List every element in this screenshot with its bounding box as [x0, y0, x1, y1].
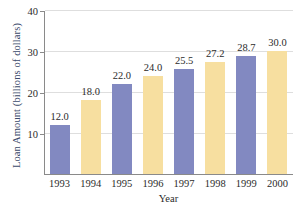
- bar-chart-figure: Loan Amount (billions of dollars) 102030…: [0, 0, 299, 210]
- gridline: [45, 51, 293, 52]
- bar: 27.21998: [205, 62, 225, 174]
- y-axis-tick-label: 10: [28, 129, 39, 140]
- y-axis-line: [44, 11, 45, 175]
- bar-value-label: 12.0: [50, 111, 68, 122]
- tick-mark: [40, 134, 44, 135]
- x-axis-title: Year: [44, 193, 293, 204]
- tick-mark: [40, 11, 44, 12]
- bar: 24.01996: [143, 76, 163, 174]
- bar-rect: [81, 100, 101, 174]
- bar-value-label: 24.0: [144, 62, 162, 73]
- x-axis-tick-label: 1996: [142, 178, 163, 189]
- tick-mark: [40, 52, 44, 53]
- bar-value-label: 25.5: [175, 55, 193, 66]
- bar-value-label: 28.7: [237, 42, 255, 53]
- x-axis-tick-label: 2000: [267, 178, 288, 189]
- x-axis-tick-label: 1998: [205, 178, 226, 189]
- bar-rect: [112, 84, 132, 174]
- x-axis-tick-label: 1995: [111, 178, 132, 189]
- bar-value-label: 22.0: [113, 70, 131, 81]
- bar: 30.02000: [267, 51, 287, 174]
- bar: 25.51997: [174, 69, 194, 174]
- gridline: [45, 10, 293, 11]
- bar-rect: [267, 51, 287, 174]
- bar-rect: [143, 76, 163, 174]
- bar-value-label: 30.0: [268, 37, 286, 48]
- x-axis-tick-label: 1993: [49, 178, 70, 189]
- y-axis-title: Loan Amount (billions of dollars): [11, 3, 22, 189]
- bar: 22.01995: [112, 84, 132, 174]
- bar-value-label: 18.0: [82, 86, 100, 97]
- plot-area: 10203040 12.0199318.0199422.0199524.0199…: [44, 11, 293, 175]
- bar-rect: [174, 69, 194, 174]
- bar-rect: [236, 56, 256, 174]
- x-axis-tick-label: 1997: [174, 178, 195, 189]
- bar-value-label: 27.2: [206, 48, 224, 59]
- bar: 18.01994: [81, 100, 101, 174]
- x-axis-tick-label: 1994: [80, 178, 101, 189]
- y-axis-tick-label: 30: [28, 47, 39, 58]
- bar-rect: [205, 62, 225, 174]
- bar: 12.01993: [50, 125, 70, 174]
- bar-rect: [50, 125, 70, 174]
- x-axis-line: [44, 174, 293, 175]
- tick-mark: [40, 93, 44, 94]
- bar: 28.71999: [236, 56, 256, 174]
- x-axis-tick-label: 1999: [236, 178, 257, 189]
- y-axis-tick-label: 40: [28, 6, 39, 17]
- y-axis-tick-label: 20: [28, 88, 39, 99]
